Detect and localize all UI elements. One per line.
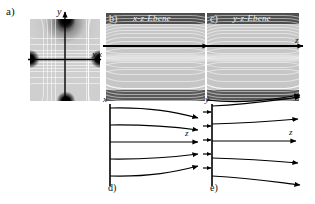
panel-b-field-map-image [106,13,205,101]
panel-c-tag: c) [210,14,218,24]
panel-d-tag: d) [108,183,116,193]
panel-b-title: x-z-Ebene [133,14,171,23]
panel-d-diagram [110,104,198,186]
panel-d-x-axis-label: x [103,95,107,104]
panel-e-tag: e) [210,183,218,193]
panel-a-x-axis-label: x [92,50,96,60]
panel-a-tag: a) [6,6,15,17]
panel-c-title: y-z-Ebene [233,14,271,23]
panel-e-diagram [203,97,300,186]
figure-root: a) y x b) x-z-Ebene x c) y-z-Ebene z x z… [0,0,315,204]
panel-c-field-map-image [207,13,299,101]
panel-d-z-axis-label: z [185,129,189,138]
panel-c-z-axis-label: z [295,36,299,45]
panel-b-x-axis-label: x [98,50,102,59]
panel-e-y-axis-label: y [205,95,209,104]
panel-e-z-axis-label: z [289,128,293,137]
panel-b-tag: b) [109,14,117,24]
panel-a-quadrupole-image [30,19,100,101]
panel-a-y-axis-label: y [57,7,61,17]
